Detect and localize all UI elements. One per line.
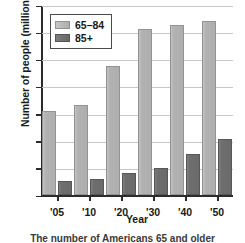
y-tick-mark-10	[36, 168, 42, 170]
figure-caption: The number of Americans 65 and older	[0, 233, 245, 243]
legend-label-85-plus: 85+	[75, 33, 93, 44]
x-tick-mark-2	[121, 196, 123, 201]
bar-10-series0	[74, 105, 88, 195]
x-tick-mark-4	[185, 196, 187, 201]
bar-20-series1	[122, 173, 136, 195]
bar-50-series0	[202, 21, 216, 195]
legend-label-65-84: 65–84	[75, 20, 104, 31]
bar-chart-figure: Number of people (millions) 010203040506…	[0, 0, 245, 243]
x-tick-mark-0	[57, 196, 59, 201]
x-tick-mark-5	[217, 196, 219, 201]
chart-legend: 65–84 85+	[50, 14, 112, 49]
bar-05-series0	[42, 111, 56, 195]
y-tick-mark-30	[36, 114, 42, 116]
legend-swatch-65-84	[55, 21, 70, 29]
gridline-70	[41, 6, 233, 7]
bar-05-series1	[58, 181, 72, 195]
y-tick-mark-0	[36, 196, 42, 198]
y-tick-mark-60	[36, 33, 42, 35]
y-axis-title: Number of people (millions)	[18, 0, 32, 149]
legend-item-0[interactable]: 65–84	[55, 19, 104, 31]
y-tick-mark-20	[36, 141, 42, 143]
legend-swatch-85-plus	[55, 34, 70, 42]
legend-item-1[interactable]: 85+	[55, 32, 104, 44]
x-tick-mark-3	[153, 196, 155, 201]
bar-30-series1	[154, 168, 168, 195]
y-tick-mark-70	[36, 6, 42, 8]
bar-40-series0	[170, 25, 184, 195]
y-tick-mark-50	[36, 60, 42, 62]
x-tick-mark-1	[89, 196, 91, 201]
bar-20-series0	[106, 66, 120, 195]
bar-50-series1	[218, 139, 232, 195]
bar-40-series1	[186, 154, 200, 195]
x-axis-title: Year	[41, 213, 233, 225]
y-tick-mark-40	[36, 87, 42, 89]
x-axis-line	[41, 195, 233, 197]
bar-30-series0	[138, 29, 152, 195]
bar-10-series1	[90, 179, 104, 195]
